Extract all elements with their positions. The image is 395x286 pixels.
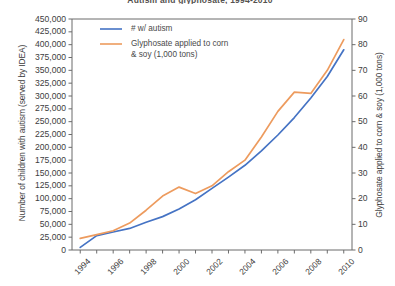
series-lines: [80, 40, 344, 248]
legend-label-glyphosate: Glyphosate applied to corn& soy (1,000 t…: [131, 39, 228, 60]
legend-label-glyphosate-line2: & soy (1,000 tons): [131, 50, 197, 59]
series-line-autism: [80, 50, 344, 248]
legend-label-glyphosate-line1: Glyphosate applied to corn: [131, 39, 228, 48]
chart-figure: Autism and glyphosate, 1994-2010 Number …: [0, 0, 395, 286]
legend-label-autism: # w/ autism: [131, 24, 172, 35]
series-line-glyphosate: [80, 40, 344, 239]
